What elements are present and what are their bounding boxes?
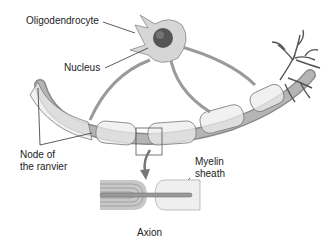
- nucleus: [153, 28, 173, 48]
- label-myelin-line1: Myelin: [195, 156, 224, 168]
- label-oligodendrocyte: Oligodendrocyte: [26, 15, 99, 27]
- oligodendrocyte: [130, 15, 186, 62]
- neuron-diagram: [0, 0, 327, 245]
- label-axon: Axion: [137, 227, 162, 239]
- inset-detail: [100, 180, 200, 210]
- label-myelin-line2: sheath: [195, 168, 225, 180]
- curved-arrow: [140, 150, 150, 180]
- label-node-line2: the ranvier: [20, 161, 67, 173]
- label-node-line1: Node of: [20, 149, 55, 161]
- label-nucleus: Nucleus: [64, 62, 100, 74]
